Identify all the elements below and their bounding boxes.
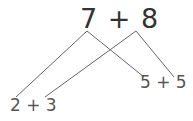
line-8-to-3: [45, 31, 136, 97]
right-branch-expression: 5 + 5: [140, 74, 187, 91]
top-expression: 7 + 8: [80, 5, 159, 32]
line-7-to-5: [87, 31, 144, 77]
line-7-to-2: [16, 31, 87, 97]
line-8-to-5: [136, 31, 174, 77]
left-branch-expression: 2 + 3: [10, 97, 57, 114]
